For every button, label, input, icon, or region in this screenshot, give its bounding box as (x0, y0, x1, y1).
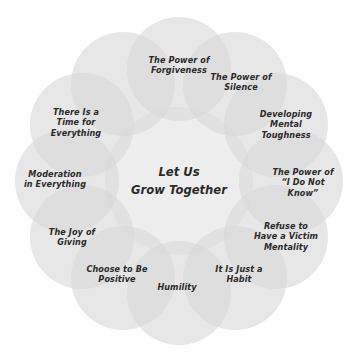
petal-label-the-power-of-forgiveness: The Power of Forgiveness (131, 55, 227, 76)
center-label: Let Us Grow Together (94, 164, 264, 199)
petal-label-humility: Humility (129, 282, 225, 292)
petal-label-the-joy-of-giving: The Joy of Giving (24, 227, 120, 248)
petal-label-refuse-to-have-a-victim-mentality: Refuse to Have a Victim Mentality (238, 221, 334, 252)
petal-label-the-joy-of-moderation-upper: There Is a Time for Everything (28, 107, 124, 138)
petal-label-moderation-in-everything: Moderation in Everything (7, 169, 103, 190)
petal-label-it-is-just-a-habit: It Is Just a Habit (191, 264, 287, 285)
petal-label-choose-to-be-positive: Choose to Be Positive (69, 264, 165, 285)
petal-label-the-power-of-silence: The Power of Silence (193, 72, 289, 93)
growth-circle-diagram: Let Us Grow Together The Power of Forgiv… (0, 0, 358, 362)
petal-label-developing-mental-toughness: Developing Mental Toughness (238, 109, 334, 140)
petal-label-the-power-of-i-do-not-know: The Power of “I Do Not Know” (255, 167, 351, 198)
diagram-label-layer: Let Us Grow Together The Power of Forgiv… (0, 0, 358, 362)
